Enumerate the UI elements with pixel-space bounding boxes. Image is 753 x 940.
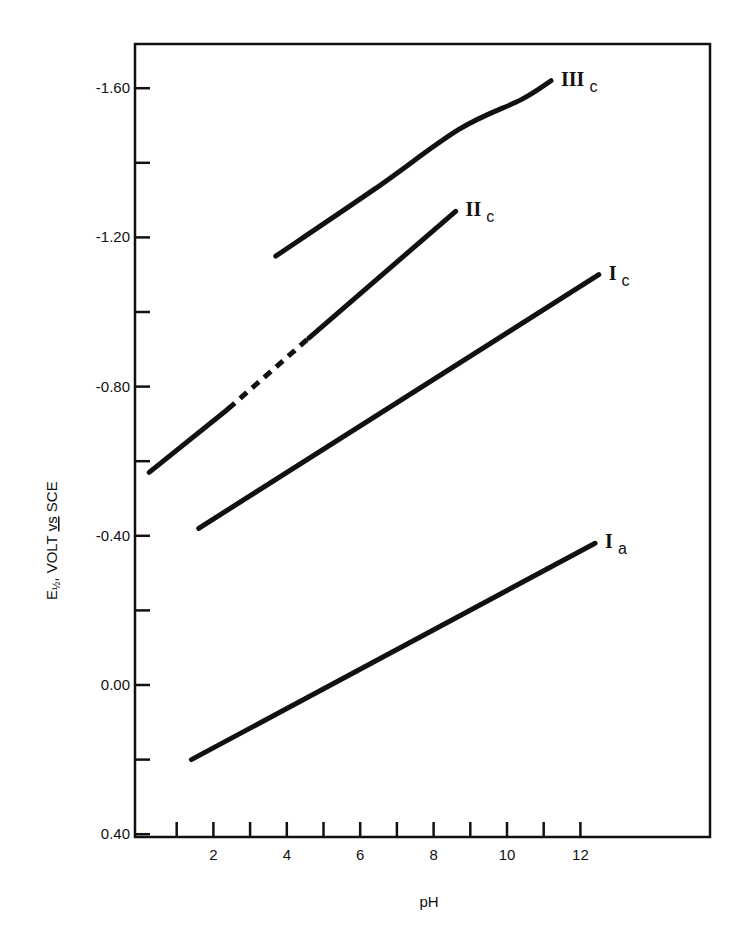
series-line-i-a <box>191 543 595 759</box>
x-tick-label: 2 <box>209 846 217 863</box>
svg-text:E½, VOLT vs SCE: E½, VOLT vs SCE <box>43 481 62 600</box>
series-label-i-c: Ic <box>609 262 630 289</box>
y-tick-label: -0.40 <box>96 527 130 544</box>
series-line-i-c <box>199 275 599 529</box>
y-tick-label: 0.40 <box>101 825 130 842</box>
x-tick-label: 6 <box>356 846 364 863</box>
x-tick-label: 8 <box>429 846 437 863</box>
series-lines <box>149 81 599 760</box>
y-tick-label: -1.60 <box>96 79 130 96</box>
series-label-ii-c: IIc <box>466 198 495 225</box>
x-tick-label: 10 <box>499 846 516 863</box>
plot-frame <box>135 44 710 837</box>
x-axis-tick-labels: 24681012 <box>209 846 589 863</box>
series-line-iii-c <box>276 81 551 256</box>
x-axis-title: pH <box>419 893 438 910</box>
x-tick-label: 4 <box>283 846 291 863</box>
y-tick-label: 0.00 <box>101 676 130 693</box>
y-axis-tick-labels: 0.400.00-0.40-0.80-1.20-1.60 <box>96 79 130 842</box>
series-line-ii-c <box>309 211 456 338</box>
series-labels: IIIcIIcIcIa <box>466 68 630 558</box>
x-axis-ticks <box>177 822 581 836</box>
y-tick-label: -0.80 <box>96 378 130 395</box>
series-label-i-a: Ia <box>605 530 627 557</box>
y-axis-ticks <box>136 88 150 834</box>
y-tick-label: -1.20 <box>96 228 130 245</box>
chart: 0.400.00-0.40-0.80-1.20-1.60 24681012 II… <box>0 0 753 940</box>
y-axis-title: E½, VOLT vs SCE <box>43 481 62 600</box>
series-line-ii-c-dashed <box>228 338 309 409</box>
series-line-ii-c <box>149 409 228 472</box>
x-tick-label: 12 <box>572 846 589 863</box>
series-label-iii-c: IIIc <box>561 68 597 95</box>
